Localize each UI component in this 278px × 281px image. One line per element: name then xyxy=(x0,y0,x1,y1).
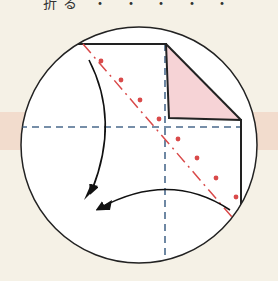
fold-diagram xyxy=(0,0,278,281)
magnified-circle-view xyxy=(21,27,257,263)
